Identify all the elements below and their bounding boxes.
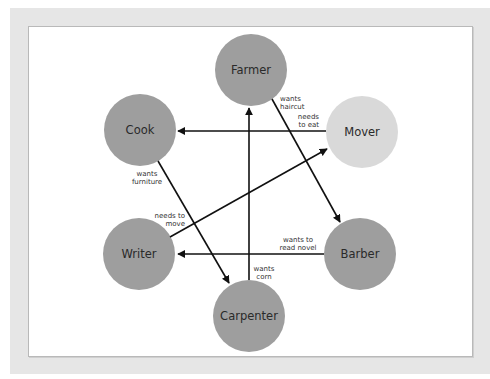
edge-label-wants-haircut: wants haircut: [280, 95, 305, 111]
edge-label-wants-corn: wants corn: [254, 265, 275, 281]
svg-text:wants: wants: [280, 95, 301, 103]
svg-text:read novel: read novel: [279, 244, 316, 252]
svg-text:to eat: to eat: [298, 121, 319, 129]
node-label-cook: Cook: [126, 123, 155, 137]
edge-label-needs-to-eat: needs to eat: [298, 113, 319, 129]
node-label-writer: Writer: [121, 247, 156, 261]
svg-text:corn: corn: [256, 273, 271, 281]
node-label-barber: Barber: [341, 247, 380, 261]
svg-text:needs: needs: [298, 113, 319, 121]
edge-label-wants-furniture: wants furniture: [132, 170, 162, 186]
node-label-farmer: Farmer: [231, 63, 271, 77]
svg-text:needs to: needs to: [155, 212, 185, 220]
node-label-carpenter: Carpenter: [220, 309, 278, 323]
svg-text:move: move: [165, 220, 185, 228]
svg-text:wants: wants: [137, 170, 158, 178]
node-carpenter: Carpenter: [213, 280, 285, 352]
node-label-mover: Mover: [344, 125, 380, 139]
svg-text:furniture: furniture: [132, 178, 162, 186]
svg-text:wants to: wants to: [283, 236, 313, 244]
edge-label-wants-to-read-novel: wants to read novel: [279, 236, 316, 252]
svg-text:haircut: haircut: [280, 103, 305, 111]
node-cook: Cook: [104, 94, 176, 166]
svg-text:wants: wants: [254, 265, 275, 273]
node-barber: Barber: [324, 218, 396, 290]
node-mover: Mover: [326, 96, 398, 168]
node-farmer: Farmer: [215, 34, 287, 106]
node-writer: Writer: [103, 218, 175, 290]
